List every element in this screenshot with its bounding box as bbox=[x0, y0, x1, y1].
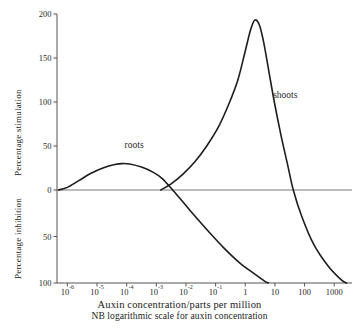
curve-label-roots: roots bbox=[125, 140, 144, 150]
plot-area: 10-610-510-410-310-210-11101001000 50100… bbox=[0, 0, 359, 328]
x-axis-ticks: 10-610-510-410-310-210-11101001000 bbox=[61, 283, 343, 297]
y-tick-label: 150 bbox=[39, 53, 52, 63]
y-tick-label: 50 bbox=[43, 141, 52, 151]
curve-roots bbox=[58, 164, 268, 283]
curve-label-shoots: shoots bbox=[273, 90, 298, 100]
x-axis-title: Auxin concentration/parts per million bbox=[0, 299, 359, 310]
y-tick-label: 50 bbox=[43, 232, 52, 242]
y-axis-title-upper: Percentage stimulation bbox=[13, 89, 23, 176]
y-tick-label: 100 bbox=[39, 97, 52, 107]
y-tick-label: 200 bbox=[39, 9, 52, 19]
y-axis-title-lower: Percentage inhibition bbox=[13, 198, 23, 279]
y-tick-label: 0 bbox=[47, 185, 51, 195]
curve-shoots bbox=[161, 20, 347, 283]
x-tick-label: 10 bbox=[271, 287, 280, 297]
x-tick-label: 1000 bbox=[326, 287, 343, 297]
curve-labels: rootsshoots bbox=[125, 90, 298, 149]
y-tick-label: 100 bbox=[39, 278, 52, 288]
chart-footnote: NB logarithmic scale for auxin concentra… bbox=[0, 311, 359, 321]
data-curves bbox=[58, 20, 346, 283]
y-axis-ticks: 50100150200050100 bbox=[39, 9, 57, 288]
auxin-response-chart: 10-610-510-410-310-210-11101001000 50100… bbox=[0, 0, 359, 328]
x-tick-label: 100 bbox=[298, 287, 311, 297]
x-tick-label: 1 bbox=[243, 287, 247, 297]
